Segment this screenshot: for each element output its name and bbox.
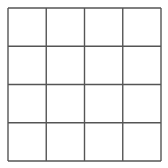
grid-cell-r3-c1 xyxy=(46,123,84,161)
grid-cell-r2-c1 xyxy=(46,85,84,123)
grid-cell-r0-c0 xyxy=(8,8,46,46)
grid-cell-r3-c0 xyxy=(8,123,46,161)
grid-4x4 xyxy=(0,0,168,168)
grid-cell-r2-c0 xyxy=(8,85,46,123)
grid-cell-r0-c1 xyxy=(46,8,84,46)
grid-cell-r1-c0 xyxy=(8,46,46,84)
grid-cell-r3-c2 xyxy=(85,123,123,161)
grid-cell-r3-c3 xyxy=(123,123,161,161)
grid-cell-r0-c2 xyxy=(85,8,123,46)
grid-cell-r1-c1 xyxy=(46,46,84,84)
grid-cell-r1-c2 xyxy=(85,46,123,84)
grid-cell-r2-c3 xyxy=(123,85,161,123)
grid-cell-r1-c3 xyxy=(123,46,161,84)
grid-canvas xyxy=(0,0,168,168)
grid-cell-r0-c3 xyxy=(123,8,161,46)
grid-cell-r2-c2 xyxy=(85,85,123,123)
